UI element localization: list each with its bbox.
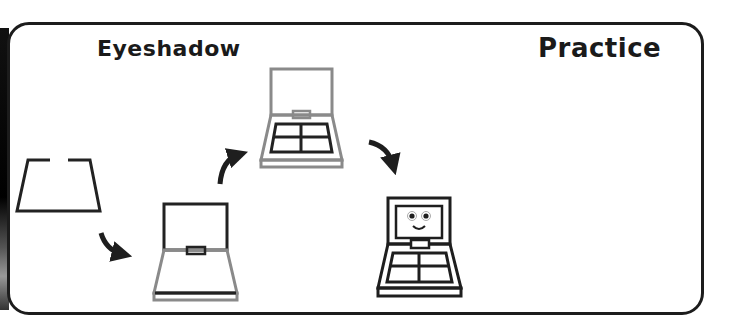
practice-sheet: Eyeshadow Practice [0, 0, 732, 334]
curved-arrow-down-right-icon [101, 233, 122, 254]
curved-arrow-up-right-icon [220, 155, 238, 184]
step-4-finished-face [378, 198, 461, 296]
step-3-pan-grid [261, 69, 342, 167]
step-2-lid-and-base [154, 204, 237, 300]
smiley-face-icon [408, 212, 431, 230]
step-1-base-outline [17, 160, 100, 211]
drawing-steps [0, 0, 732, 334]
curved-arrow-down-right-icon [369, 142, 393, 165]
